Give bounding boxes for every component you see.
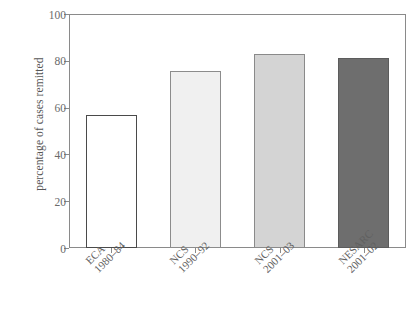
plot-top-border xyxy=(69,14,406,15)
y-tick-label: 80 xyxy=(55,55,67,67)
plot-area: 020406080100 xyxy=(69,14,406,248)
y-tick-label: 100 xyxy=(49,9,66,21)
y-tick-label: 20 xyxy=(55,196,67,208)
y-tick-label: 0 xyxy=(60,243,66,255)
bar xyxy=(170,71,221,248)
y-axis-line xyxy=(69,14,70,248)
plot-right-border xyxy=(405,14,406,248)
bar-chart: percentage of cases remitted 02040608010… xyxy=(0,0,416,322)
y-tick-label: 60 xyxy=(55,102,67,114)
bar xyxy=(338,58,389,248)
bar xyxy=(254,54,305,248)
bar xyxy=(86,115,137,248)
y-tick-label: 40 xyxy=(55,149,67,161)
y-axis-title: percentage of cases remitted xyxy=(26,0,52,248)
